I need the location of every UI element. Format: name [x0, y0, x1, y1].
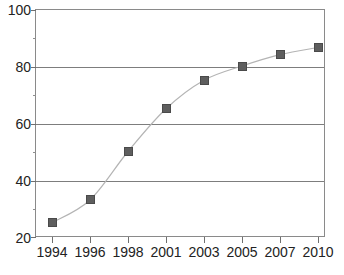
y-tick-70: [33, 95, 36, 96]
x-tick-2005: [242, 237, 243, 243]
y-tick-50: [33, 152, 36, 153]
data-point-2005: [238, 62, 247, 71]
data-point-1994: [48, 218, 57, 227]
y-axis-label-40: 40: [0, 174, 31, 188]
data-point-2007: [276, 50, 285, 59]
y-tick-60: [31, 124, 36, 125]
x-tick-1998: [128, 237, 129, 243]
y-axis-label-20: 20: [0, 231, 31, 245]
y-axis-label-100: 100: [0, 3, 31, 17]
x-tick-2007: [280, 237, 281, 243]
data-point-1998: [124, 147, 133, 156]
y-tick-20: [31, 237, 36, 238]
y-tick-30: [33, 209, 36, 210]
gridline-40: [36, 181, 324, 182]
y-axis-label-60: 60: [0, 117, 31, 131]
data-point-2003: [200, 76, 209, 85]
data-point-1996: [86, 195, 95, 204]
data-point-2001: [162, 104, 171, 113]
x-axis-label-2010: 2010: [296, 245, 340, 259]
gridline-60: [36, 124, 324, 125]
plot-area: [35, 9, 325, 237]
y-axis-label-80: 80: [0, 60, 31, 74]
x-tick-1996: [90, 237, 91, 243]
y-tick-90: [33, 38, 36, 39]
y-tick-100: [31, 10, 36, 11]
data-point-2010: [314, 43, 323, 52]
x-tick-2001: [166, 237, 167, 243]
y-tick-40: [31, 181, 36, 182]
x-tick-2003: [204, 237, 205, 243]
gridline-80: [36, 67, 324, 68]
x-tick-2010: [318, 237, 319, 243]
chart-container: 100 80 60 40 20 1994 1996 1998 2001 2003…: [0, 0, 344, 275]
y-tick-80: [31, 67, 36, 68]
x-tick-1994: [52, 237, 53, 243]
